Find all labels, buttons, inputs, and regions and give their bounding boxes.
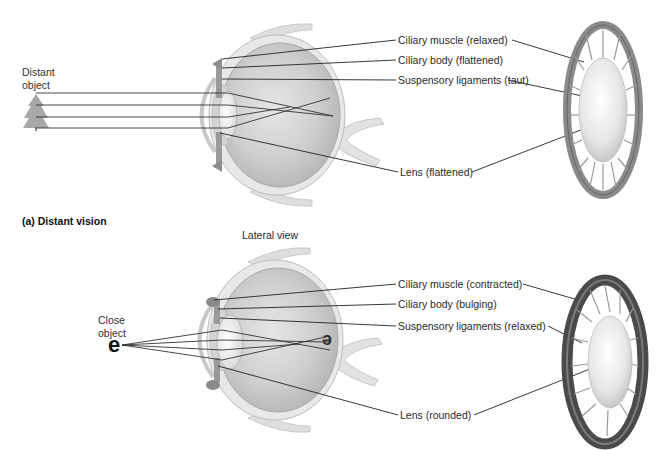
lens-ring-close [567,280,643,444]
close-vision-illustration [0,0,664,450]
label-suspensory-ligaments-relaxed: Suspensory ligaments (relaxed) [398,320,546,332]
inverted-image-glyph: e [322,332,332,350]
label-lens-rounded: Lens (rounded) [400,409,471,421]
label-ciliary-body-bulging: Ciliary body (bulging) [398,298,497,310]
label-ciliary-muscle-contracted: Ciliary muscle (contracted) [398,278,522,290]
